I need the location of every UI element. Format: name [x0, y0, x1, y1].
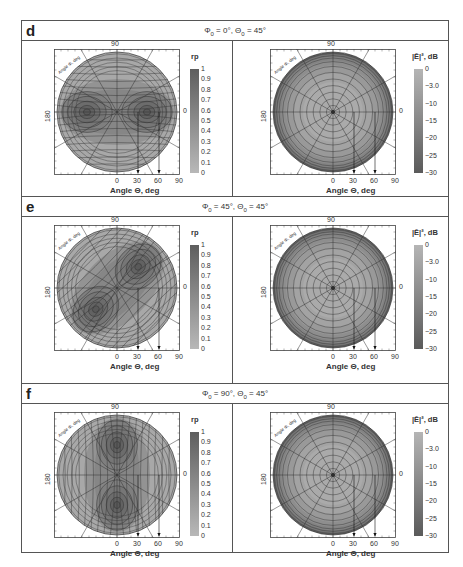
- colorbar-tick: 0.8: [201, 86, 211, 93]
- x-tick: 0: [331, 177, 335, 184]
- colorbar-tick: 0.7: [201, 96, 211, 103]
- colorbar-tick: 0.8: [201, 262, 211, 269]
- rp-polar-plot: [54, 49, 180, 175]
- x-tick: 60: [154, 353, 162, 360]
- tick-90: 90: [111, 403, 119, 410]
- colorbar-tick: 1: [201, 65, 205, 72]
- colorbar-tick: 0.2: [201, 324, 211, 331]
- tick-90: 90: [327, 216, 335, 223]
- colorbar-tick: 0.6: [201, 107, 211, 114]
- column-divider: [232, 41, 233, 196]
- x-tick: 30: [133, 353, 141, 360]
- colorbar-tick: −10: [425, 100, 437, 107]
- colorbar-tick: 0.1: [201, 159, 211, 166]
- colorbar-tick: −20: [425, 497, 437, 504]
- colorbar-tick: −30: [425, 345, 437, 352]
- x-tick: 60: [370, 540, 378, 547]
- colorbar-tick: −10: [425, 463, 437, 470]
- x-axis-label: Angle Θ, deg: [110, 549, 159, 558]
- x-tick: 60: [154, 540, 162, 547]
- colorbar-tick: 1: [201, 428, 205, 435]
- x-tick: 90: [391, 353, 399, 360]
- colorbar-label: |Ē|², dB: [412, 52, 438, 61]
- x-tick: 0: [331, 353, 335, 360]
- column-divider: [232, 217, 233, 384]
- colorbar-tick: 0.5: [201, 480, 211, 487]
- tick-0: 0: [399, 470, 403, 477]
- colorbar-label: |Ē|², dB: [412, 228, 438, 237]
- field-colorbar: [414, 69, 423, 173]
- tick-0: 0: [183, 107, 187, 114]
- panel-parameters: Φ0 = 0°, Θ0 = 45°: [22, 21, 448, 44]
- figure-frame: dΦ0 = 0°, Θ0 = 45°9001800306090Angle Θ, …: [21, 20, 449, 553]
- rp-polar-plot: [54, 225, 180, 351]
- x-axis-label: Angle Θ, deg: [110, 186, 159, 195]
- colorbar-label: rp: [191, 228, 199, 237]
- colorbar-tick: 0.5: [201, 117, 211, 124]
- colorbar-tick: −15: [425, 480, 437, 487]
- colorbar-tick: 0.7: [201, 459, 211, 466]
- x-tick: 30: [349, 177, 357, 184]
- tick-180: 180: [260, 286, 267, 298]
- tick-180: 180: [44, 110, 51, 122]
- colorbar-tick: −30: [425, 169, 437, 176]
- field-colorbar: [414, 432, 423, 536]
- rp-colorbar: [190, 69, 199, 173]
- colorbar-tick: 0.2: [201, 148, 211, 155]
- colorbar-tick: 0: [201, 345, 205, 352]
- rp-colorbar: [190, 245, 199, 349]
- tick-0: 0: [399, 107, 403, 114]
- x-axis-label: Angle Θ, deg: [110, 362, 159, 371]
- colorbar-tick: 0: [201, 169, 205, 176]
- colorbar-label: |Ē|², dB: [412, 415, 438, 424]
- x-tick: 0: [331, 540, 335, 547]
- colorbar-tick: −25: [425, 152, 437, 159]
- colorbar-tick: 0.3: [201, 138, 211, 145]
- colorbar-tick: 0.9: [201, 438, 211, 445]
- colorbar-tick: −20: [425, 310, 437, 317]
- x-tick: 90: [175, 353, 183, 360]
- colorbar-tick: −25: [425, 515, 437, 522]
- field-colorbar: [414, 245, 423, 349]
- colorbar-tick: 0.9: [201, 251, 211, 258]
- colorbar-tick: 0: [425, 65, 429, 72]
- panel-title-row: fΦ0 = 90°, Θ0 = 45°: [22, 384, 448, 404]
- colorbar-tick: 0.3: [201, 501, 211, 508]
- colorbar-tick: −10: [425, 276, 437, 283]
- colorbar-tick: −30: [425, 532, 437, 539]
- colorbar-tick: 0.1: [201, 335, 211, 342]
- panel-parameters: Φ0 = 90°, Θ0 = 45°: [22, 384, 448, 407]
- x-tick: 60: [370, 177, 378, 184]
- panel-title-row: eΦ0 = 45°, Θ0 = 45°: [22, 197, 448, 217]
- field-polar-plot: [270, 49, 396, 175]
- x-tick: 90: [391, 177, 399, 184]
- colorbar-tick: 0.1: [201, 522, 211, 529]
- x-tick: 90: [175, 540, 183, 547]
- colorbar-tick: 0: [425, 428, 429, 435]
- tick-180: 180: [44, 473, 51, 485]
- tick-180: 180: [44, 286, 51, 298]
- x-tick: 60: [370, 353, 378, 360]
- colorbar-label: rp: [191, 415, 199, 424]
- x-tick: 90: [175, 177, 183, 184]
- colorbar-tick: 0: [201, 532, 205, 539]
- colorbar-tick: 0.4: [201, 127, 211, 134]
- x-tick: 30: [133, 177, 141, 184]
- x-tick: 0: [115, 540, 119, 547]
- colorbar-label: rp: [191, 52, 199, 61]
- column-divider: [232, 404, 233, 553]
- x-tick: 60: [154, 177, 162, 184]
- x-tick: 30: [349, 353, 357, 360]
- tick-0: 0: [183, 470, 187, 477]
- colorbar-tick: 0.8: [201, 449, 211, 456]
- panel-e: eΦ0 = 45°, Θ0 = 45°9001800306090Angle Θ,…: [22, 196, 448, 383]
- colorbar-tick: −15: [425, 293, 437, 300]
- x-axis-label: Angle Θ, deg: [326, 362, 375, 371]
- panel-d: dΦ0 = 0°, Θ0 = 45°9001800306090Angle Θ, …: [22, 21, 448, 196]
- rp-colorbar: [190, 432, 199, 536]
- panel-title-row: dΦ0 = 0°, Θ0 = 45°: [22, 21, 448, 41]
- colorbar-tick: −15: [425, 117, 437, 124]
- colorbar-tick: 0.7: [201, 272, 211, 279]
- x-tick: 0: [115, 177, 119, 184]
- field-polar-plot: [270, 412, 396, 538]
